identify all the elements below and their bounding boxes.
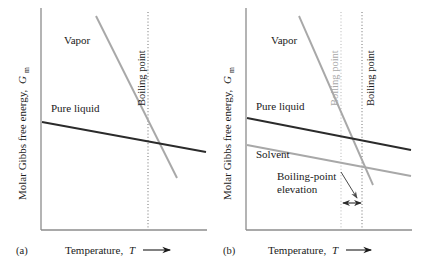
panel-id-b: (b) — [223, 245, 236, 257]
svg-text:Molar Gibbs free energy,: Molar Gibbs free energy, G m — [221, 67, 236, 200]
curve-label-vapor-b: Vapor — [271, 34, 298, 46]
x-axis-label-text-b: Temperature, — [268, 244, 326, 256]
y-axis-label-symbol-b: G — [221, 76, 233, 84]
boiling-point-solution-label-b: Boiling point — [365, 50, 376, 106]
boiling-point-label-a: Boiling point — [136, 50, 147, 106]
curve-label-pure-liquid-a: Pure liquid — [51, 102, 100, 114]
panel-id-a: (a) — [16, 245, 28, 257]
boiling-point-pure-label-b: Boiling point — [329, 50, 340, 106]
y-axis-label-subscript-a: m — [22, 67, 31, 73]
annotation-pointer-line — [341, 172, 357, 198]
svg-text:Temperature, T: Temperature, T — [65, 244, 136, 256]
x-axis-label-symbol-a: T — [129, 244, 136, 256]
x-axis-label-a: Temperature, T — [65, 244, 170, 256]
curve-pure-liquid-b — [247, 118, 411, 150]
svg-text:Temperature, T: Temperature, T — [268, 244, 339, 256]
boiling-point-elevation-annotation: Boiling-point elevation — [277, 170, 361, 203]
curve-pure-liquid-a — [42, 122, 206, 152]
panel-b: Molar Gibbs free energy, G m Vapor Pure … — [211, 0, 422, 265]
y-axis-label-text-b: Molar Gibbs free energy, — [221, 89, 233, 200]
figure-container: Molar Gibbs free energy, G m Vapor Pure … — [0, 0, 422, 265]
svg-text:Molar Gibbs free energy,: Molar Gibbs free energy, G m — [16, 67, 31, 200]
y-axis-label-b: Molar Gibbs free energy, G m — [221, 67, 236, 200]
curve-label-solvent-b: Solvent — [256, 148, 290, 160]
annotation-line-1: Boiling-point — [277, 170, 336, 182]
y-axis-label-subscript-b: m — [227, 67, 236, 73]
x-axis-label-text-a: Temperature, — [65, 244, 123, 256]
y-axis-label-a: Molar Gibbs free energy, G m — [16, 67, 31, 200]
panel-a: Molar Gibbs free energy, G m Vapor Pure … — [0, 0, 211, 265]
x-axis-label-b: Temperature, T — [268, 244, 371, 256]
y-axis-label-symbol-a: G — [16, 76, 28, 84]
curve-label-pure-liquid-b: Pure liquid — [256, 100, 305, 112]
annotation-line-2: elevation — [277, 183, 318, 195]
curve-label-vapor-a: Vapor — [64, 34, 91, 46]
y-axis-label-text-a: Molar Gibbs free energy, — [16, 89, 28, 200]
x-axis-label-symbol-b: T — [332, 244, 339, 256]
